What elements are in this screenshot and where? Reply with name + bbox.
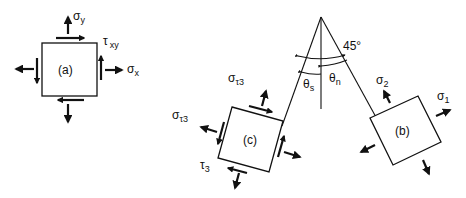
sigma-x-label: σx (127, 62, 139, 78)
right-ray (321, 17, 377, 119)
shear-c-bottom-arrow-icon (228, 168, 247, 173)
element-a: (a) σy σx τxy (16, 9, 139, 122)
shear-c-top-arrow-icon (249, 106, 272, 112)
right-normal-arrow-icon (284, 152, 300, 157)
sigma-2-arrow-icon (384, 91, 390, 103)
sigma-1-label: σ1 (437, 89, 449, 105)
bottom-normal-arrow-icon-b (423, 160, 429, 174)
sigma-1-arrow-icon (436, 110, 450, 116)
theta-n-label: θn (329, 71, 341, 87)
angle-construction: 45° θs θn (282, 17, 377, 126)
sigma-tau3-top-arrow-icon (262, 91, 266, 106)
left-normal-arrow-icon (361, 145, 375, 152)
tau-3-label: τ3 (200, 158, 210, 174)
arc-theta-s-icon (301, 72, 321, 74)
arc-theta-n-icon (321, 60, 347, 66)
stress-transformation-diagram: (a) σy σx τxy 45° θs θn (c) (0, 0, 466, 198)
element-a-label: (a) (58, 63, 73, 77)
sigma-2-label: σ2 (376, 73, 388, 89)
element-b: (b) σ2 σ1 (361, 73, 450, 174)
shear-c-right-arrow-icon (278, 136, 284, 157)
sigma-tau3-left-label: στ3 (172, 108, 188, 124)
angle-45-label: 45° (343, 39, 361, 53)
theta-s-label: θs (303, 77, 315, 93)
left-ray (282, 17, 321, 126)
element-c: (c) στ3 στ3 τ3 (172, 71, 300, 188)
element-c-label: (c) (243, 133, 257, 147)
bottom-normal-arrow-icon (235, 173, 239, 188)
tau-xy-label: τxy (103, 34, 119, 50)
sigma-tau3-top-label: στ3 (228, 71, 244, 87)
sigma-y-label: σy (73, 9, 85, 25)
sigma-tau3-left-arrow-icon (201, 127, 217, 132)
element-b-label: (b) (395, 124, 410, 138)
